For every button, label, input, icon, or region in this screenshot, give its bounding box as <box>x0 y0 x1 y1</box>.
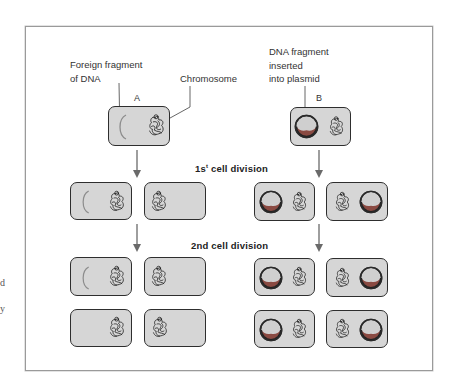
plasmid-icon <box>359 190 383 214</box>
plasmid-icon <box>259 266 283 290</box>
cell-a-gen2-3 <box>70 309 132 347</box>
cell-b-gen2-4 <box>326 310 388 348</box>
cell-a-gen2-2 <box>144 257 206 296</box>
cell-a-gen1-2 <box>144 182 206 220</box>
cell-b-gen2-2 <box>326 258 388 297</box>
foreign-dna-fragment-icon <box>79 266 91 290</box>
chromosome-icon <box>149 189 170 214</box>
cell-b-gen1-2 <box>326 182 388 221</box>
cell-a-gen2-1 <box>70 257 132 296</box>
plasmid-icon <box>259 318 283 342</box>
plasmid-icon <box>259 190 283 214</box>
chromosome-icon <box>107 264 128 289</box>
cell-b-gen1-1 <box>254 182 315 221</box>
chromosome-icon <box>149 264 170 289</box>
chromosome-icon <box>290 317 310 341</box>
chromosome-icon <box>333 317 353 341</box>
chromosome-icon <box>146 113 168 138</box>
chromosome-icon <box>333 266 353 290</box>
chromosome-icon <box>290 190 310 214</box>
chromosome-icon <box>150 315 171 340</box>
plasmid-icon <box>294 114 319 139</box>
cell-b-gen2-1 <box>254 258 315 296</box>
chromosome-icon <box>107 315 128 340</box>
cell-a-gen1-1 <box>70 182 132 220</box>
foreign-dna-fragment-icon <box>116 114 128 140</box>
plasmid-icon <box>359 266 383 290</box>
chromosome-icon <box>327 115 347 138</box>
chromosome-icon <box>333 190 353 214</box>
foreign-dna-fragment-icon <box>79 190 91 214</box>
chromosome-icon <box>107 189 128 214</box>
plasmid-icon <box>359 318 383 342</box>
chromosome-icon <box>290 265 310 289</box>
cell-b-parent <box>290 107 351 146</box>
cell-a-gen2-4 <box>144 309 206 347</box>
cell-a-parent <box>108 106 170 146</box>
cell-b-gen2-3 <box>254 310 315 348</box>
